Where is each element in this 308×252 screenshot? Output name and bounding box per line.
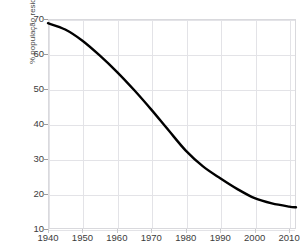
x-tick-mark xyxy=(82,229,83,233)
x-tick-mark xyxy=(186,229,187,233)
y-tick-mark xyxy=(43,124,48,125)
gridline-horizontal xyxy=(49,230,295,231)
gridline-horizontal xyxy=(49,160,295,161)
chart-figure: 10203040506070 1940195019601970198019902… xyxy=(0,0,308,252)
x-tick-mark xyxy=(289,229,290,233)
x-tick-mark xyxy=(255,229,256,233)
gridline-vertical xyxy=(187,20,188,228)
y-tick-mark xyxy=(43,194,48,195)
y-tick-mark xyxy=(43,89,48,90)
x-tick-label: 2010 xyxy=(269,233,308,243)
y-tick-label: 20 xyxy=(14,189,44,199)
gridline-vertical xyxy=(152,20,153,228)
gridline-vertical xyxy=(118,20,119,228)
y-tick-mark xyxy=(43,54,48,55)
x-tick-mark xyxy=(117,229,118,233)
gridline-vertical xyxy=(290,20,291,228)
gridline-horizontal xyxy=(49,20,295,21)
gridline-horizontal xyxy=(49,125,295,126)
y-tick-mark xyxy=(43,19,48,20)
gridline-vertical xyxy=(221,20,222,228)
gridline-vertical xyxy=(49,20,50,228)
y-tick-label: 30 xyxy=(14,154,44,164)
plot-area xyxy=(48,19,296,229)
chart-title xyxy=(0,0,308,8)
y-tick-mark xyxy=(43,159,48,160)
gridline-vertical xyxy=(83,20,84,228)
x-tick-mark xyxy=(48,229,49,233)
x-tick-mark xyxy=(220,229,221,233)
y-tick-label: 40 xyxy=(14,119,44,129)
gridline-horizontal xyxy=(49,55,295,56)
y-tick-label: 50 xyxy=(14,84,44,94)
gridline-vertical xyxy=(256,20,257,228)
gridline-horizontal xyxy=(49,90,295,91)
y-axis-title: % população residente xyxy=(29,0,37,64)
x-tick-mark xyxy=(151,229,152,233)
gridline-horizontal xyxy=(49,195,295,196)
